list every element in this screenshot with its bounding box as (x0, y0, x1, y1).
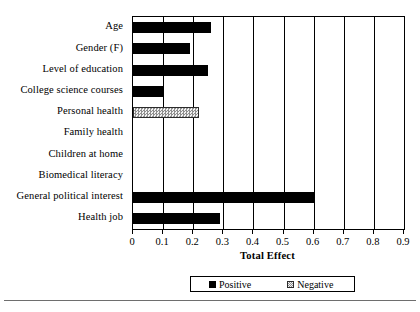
x-axis-tickmark (283, 229, 284, 234)
bar-chart-figure: Age Gender (F) Level of education Colleg… (0, 0, 420, 312)
plot-area (132, 16, 405, 230)
category-label-gender: Gender (F) (0, 37, 128, 58)
legend-swatch-negative (287, 281, 294, 288)
legend-entry-positive: Positive (209, 279, 251, 290)
category-axis-labels: Age Gender (F) Level of education Colleg… (0, 16, 128, 228)
x-axis-tickmark (132, 229, 133, 234)
category-label-children-at-home: Children at home (0, 143, 128, 164)
x-axis-tickmark (222, 229, 223, 234)
x-axis-tick-label: 0.8 (366, 235, 379, 249)
x-axis-tickmark (252, 229, 253, 234)
bar-personal-health (133, 107, 199, 118)
bar-row (133, 59, 404, 80)
x-axis-tickmark (162, 229, 163, 234)
bar-gender (133, 43, 190, 54)
category-label-health-job: Health job (0, 207, 128, 228)
category-label-general-political-interest: General political interest (0, 186, 128, 207)
x-axis-tick-label: 0 (129, 235, 134, 249)
bar-row (133, 102, 404, 123)
bar-level-of-education (133, 65, 208, 76)
bar-row (133, 17, 404, 38)
category-label-family-health: Family health (0, 122, 128, 143)
bar-row (133, 208, 404, 229)
chart-legend: Positive Negative (190, 276, 355, 292)
category-label-age: Age (0, 16, 128, 37)
bar-row (133, 187, 404, 208)
bar-row (133, 38, 404, 59)
bar-row (133, 144, 404, 165)
x-axis-tick-label: 0.2 (186, 235, 199, 249)
x-axis-tick-label: 0.4 (246, 235, 259, 249)
bar-age (133, 22, 211, 33)
bar-row (133, 81, 404, 102)
bars-layer (133, 17, 404, 229)
x-axis-tick-label: 0.5 (276, 235, 289, 249)
x-axis-tick-label: 0.9 (396, 235, 409, 249)
x-axis-title: Total Effect (132, 250, 403, 261)
x-axis-tickmark (403, 229, 404, 234)
legend-label-negative: Negative (297, 279, 333, 290)
x-axis-tick-labels: 00.10.20.30.40.50.60.70.80.9 (132, 235, 403, 249)
bar-row (133, 123, 404, 144)
x-axis-tickmark (373, 229, 374, 234)
category-label-biomedical-literacy: Biomedical literacy (0, 164, 128, 185)
legend-label-positive: Positive (219, 279, 251, 290)
category-label-college-science-courses: College science courses (0, 80, 128, 101)
category-label-personal-health: Personal health (0, 101, 128, 122)
gridline (404, 17, 405, 229)
bar-college-science-courses (133, 86, 163, 97)
x-axis-tick-label: 0.7 (336, 235, 349, 249)
footer-divider (4, 300, 416, 301)
category-label-level-of-education: Level of education (0, 58, 128, 79)
legend-entry-negative: Negative (287, 279, 333, 290)
bar-row (133, 165, 404, 186)
x-axis-tick-label: 0.3 (216, 235, 229, 249)
x-axis-tickmark (313, 229, 314, 234)
legend-swatch-positive (209, 281, 216, 288)
x-axis-tick-label: 0.6 (306, 235, 319, 249)
bar-health-job (133, 213, 220, 224)
bar-general-political-interest (133, 192, 314, 203)
x-axis-tickmarks (132, 229, 403, 234)
x-axis-tickmark (192, 229, 193, 234)
x-axis-tickmark (343, 229, 344, 234)
x-axis-tick-label: 0.1 (156, 235, 169, 249)
